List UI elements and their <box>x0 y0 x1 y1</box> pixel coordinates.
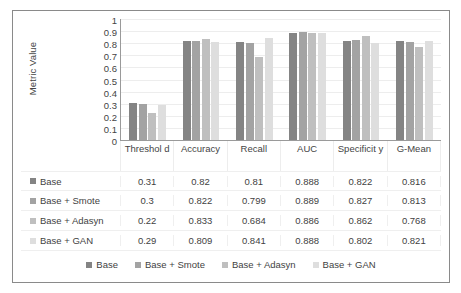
y-tick-label: 0.9 <box>104 28 117 37</box>
category-label: Specificit y <box>333 141 386 171</box>
y-tick-label: 0 <box>112 137 117 146</box>
table-cell: 0.821 <box>387 235 441 246</box>
table-cell: 0.799 <box>227 195 280 206</box>
series-name: Base + Adasyn <box>40 215 104 226</box>
bar[interactable] <box>406 42 414 140</box>
category-label: Recall <box>227 141 280 171</box>
y-tick-label: 1 <box>112 16 117 25</box>
legend-swatch-icon <box>222 262 228 268</box>
table-cell: 0.889 <box>280 195 333 206</box>
bar-group <box>228 19 281 140</box>
bar[interactable] <box>202 39 210 140</box>
series-name: Base + Smote <box>40 195 100 206</box>
bar[interactable] <box>129 103 137 141</box>
table-cell: 0.768 <box>387 215 441 226</box>
bar[interactable] <box>139 104 147 140</box>
table-row: Base0.310.820.810.8880.8220.816 <box>21 171 441 191</box>
legend-swatch-icon <box>135 262 141 268</box>
bar[interactable] <box>236 42 244 140</box>
legend-item[interactable]: Base + Adasyn <box>222 259 296 270</box>
bar-group <box>281 19 334 140</box>
y-tick-label: 0.6 <box>104 64 117 73</box>
series-name: Base + GAN <box>40 235 93 246</box>
bar[interactable] <box>255 57 263 140</box>
y-axis-tick-labels: 10.90.80.70.60.50.40.30.20.10 <box>89 19 117 141</box>
table-cell: 0.29 <box>120 235 173 246</box>
legend-label: Base <box>96 259 118 270</box>
chart-legend: BaseBase + SmoteBase + AdasynBase + GAN <box>13 259 449 270</box>
category-label: AUC <box>280 141 333 171</box>
bar[interactable] <box>352 40 360 140</box>
table-row: Base + Smote0.30.8220.7990.8890.8270.813 <box>21 191 441 211</box>
table-cell: 0.684 <box>227 215 280 226</box>
category-label: G-Mean <box>387 141 441 171</box>
bar-group <box>174 19 227 140</box>
y-tick-label: 0.7 <box>104 52 117 61</box>
table-cell: 0.888 <box>280 235 333 246</box>
series-swatch-icon <box>30 198 36 204</box>
series-swatch-icon <box>30 238 36 244</box>
table-row-label: Base + Adasyn <box>21 215 120 226</box>
bar[interactable] <box>371 43 379 140</box>
table-cell: 0.888 <box>280 176 333 187</box>
bar[interactable] <box>425 41 433 140</box>
bar[interactable] <box>265 38 273 140</box>
legend-swatch-icon <box>86 262 92 268</box>
bar[interactable] <box>192 41 200 140</box>
category-label: Accuracy <box>173 141 226 171</box>
bar[interactable] <box>299 32 307 140</box>
legend-item[interactable]: Base + Smote <box>135 259 205 270</box>
bar-group <box>334 19 387 140</box>
table-cell: 0.82 <box>173 176 226 187</box>
bar[interactable] <box>289 33 297 140</box>
bar[interactable] <box>246 43 254 140</box>
table-cell: 0.31 <box>120 176 173 187</box>
table-cells: 0.30.8220.7990.8890.8270.813 <box>120 195 441 206</box>
legend-swatch-icon <box>313 262 319 268</box>
table-cell: 0.809 <box>173 235 226 246</box>
series-swatch-icon <box>30 178 36 184</box>
table-cell: 0.862 <box>333 215 386 226</box>
table-cells: 0.220.8330.6840.8860.8620.768 <box>120 215 441 226</box>
y-axis-title: Metric Value <box>27 14 38 124</box>
table-cell: 0.816 <box>387 176 441 187</box>
category-label: Threshol d <box>120 141 173 171</box>
table-cell: 0.3 <box>120 195 173 206</box>
table-cell: 0.886 <box>280 215 333 226</box>
bar[interactable] <box>343 41 351 140</box>
y-tick-label: 0.1 <box>104 124 117 133</box>
table-row-label: Base + GAN <box>21 235 120 246</box>
bar[interactable] <box>318 33 326 140</box>
bar[interactable] <box>396 41 404 140</box>
legend-label: Base + Smote <box>145 259 205 270</box>
y-tick-label: 0.2 <box>104 112 117 121</box>
table-cell: 0.81 <box>227 176 280 187</box>
bar-groups <box>121 19 441 140</box>
legend-item[interactable]: Base + GAN <box>313 259 376 270</box>
table-row-label: Base <box>21 176 120 187</box>
category-axis-labels: Threshol dAccuracyRecallAUCSpecificit yG… <box>120 141 441 171</box>
bar[interactable] <box>148 113 156 140</box>
bar-group <box>388 19 441 140</box>
table-cell: 0.822 <box>333 176 386 187</box>
table-cell: 0.22 <box>120 215 173 226</box>
bar[interactable] <box>308 33 316 140</box>
table-cell: 0.813 <box>387 195 441 206</box>
table-row-label: Base + Smote <box>21 195 120 206</box>
series-name: Base <box>40 176 62 187</box>
legend-label: Base + GAN <box>323 259 376 270</box>
series-swatch-icon <box>30 218 36 224</box>
bar-group <box>121 19 174 140</box>
bar[interactable] <box>158 105 166 140</box>
legend-item[interactable]: Base <box>86 259 118 270</box>
table-cells: 0.310.820.810.8880.8220.816 <box>120 176 441 187</box>
data-table: Base0.310.820.810.8880.8220.816Base + Sm… <box>21 171 441 251</box>
plot-wrapper: Metric Value 10.90.80.70.60.50.40.30.20.… <box>13 11 449 163</box>
plot-area <box>120 19 441 141</box>
bar[interactable] <box>362 36 370 140</box>
y-tick-label: 0.4 <box>104 88 117 97</box>
table-cell: 0.833 <box>173 215 226 226</box>
bar[interactable] <box>415 47 423 140</box>
bar[interactable] <box>183 41 191 140</box>
bar[interactable] <box>211 42 219 140</box>
